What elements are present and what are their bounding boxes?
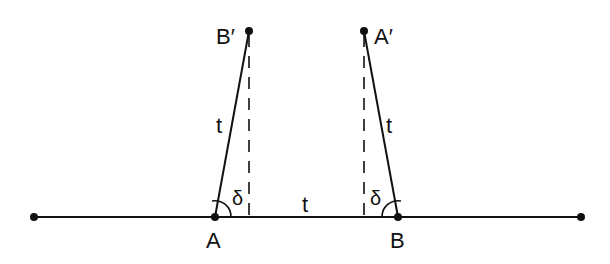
- label-B: B: [390, 228, 405, 253]
- label-delta-right: δ: [370, 187, 381, 209]
- label-delta-left: δ: [232, 187, 243, 209]
- left-endpoint: [30, 213, 38, 221]
- label-B-prime: B′: [216, 24, 235, 49]
- label-t-middle: t: [302, 192, 308, 217]
- label-t-left: t: [216, 113, 222, 138]
- label-A: A: [206, 228, 221, 253]
- label-A-prime: A′: [374, 24, 393, 49]
- label-t-right: t: [386, 113, 392, 138]
- geometry-diagram: B′ A′ t t t δ δ A B: [0, 0, 610, 264]
- right-endpoint: [577, 213, 585, 221]
